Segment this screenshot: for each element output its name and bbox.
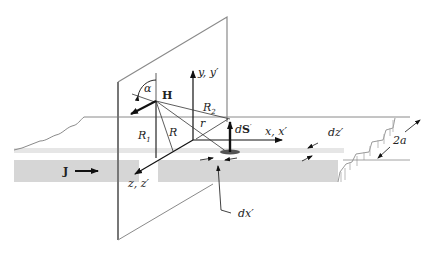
y-axis-label: y, y′ — [197, 66, 219, 79]
alpha-reference-line — [132, 94, 155, 102]
R1-label: R1 — [137, 129, 151, 144]
slab-torn-left-edge — [14, 117, 84, 150]
H-label: H — [162, 89, 172, 102]
J-label: J — [62, 165, 68, 178]
dx-arrow-right — [225, 158, 237, 160]
dx-label: dx′ — [238, 207, 254, 220]
slab-front-face-right — [158, 160, 338, 182]
alpha-label: α — [144, 82, 152, 95]
slab — [14, 117, 410, 182]
R2-label: R2 — [202, 101, 216, 116]
dS-label: dS′ — [235, 123, 252, 136]
dx-arrow-left — [200, 158, 213, 160]
thickness-arrow-bottom — [378, 147, 390, 158]
dz-label: dz′ — [328, 126, 344, 139]
z-axis-label: z, z′ — [127, 177, 150, 190]
thickness-label: 2a — [392, 134, 407, 147]
slab-field-diagram: α H y, y′ R2 R1 R r dS′ x, x′ dz′ 2a J z… — [0, 0, 438, 253]
r-label: r — [200, 117, 206, 130]
figure: α H y, y′ R2 R1 R r dS′ x, x′ dz′ 2a J z… — [0, 0, 438, 253]
dz-arrow-top — [308, 143, 318, 148]
thickness-arrow-top — [405, 120, 420, 132]
H-vector — [131, 101, 156, 114]
x-axis-label: x, x′ — [265, 125, 287, 138]
R-label: R — [168, 126, 177, 139]
